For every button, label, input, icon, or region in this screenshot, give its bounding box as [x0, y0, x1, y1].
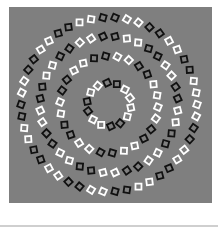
square-marker [84, 98, 91, 105]
square-marker [154, 52, 162, 60]
square-marker [64, 178, 72, 186]
square-marker [84, 107, 92, 115]
square-marker [37, 95, 44, 102]
square-marker [167, 71, 175, 79]
square-marker [21, 125, 27, 131]
square-marker [85, 145, 93, 153]
square-marker [54, 171, 62, 179]
square-marker [134, 18, 142, 26]
square-marker [187, 67, 193, 73]
square-marker [168, 130, 175, 137]
square-marker [87, 89, 94, 96]
square-marker [17, 101, 25, 109]
horizontal-divider [0, 225, 218, 227]
square-marker [144, 70, 152, 78]
ring-3 [56, 52, 162, 156]
square-marker [37, 156, 45, 164]
square-marker [116, 119, 124, 127]
square-marker [45, 164, 53, 172]
square-marker [76, 38, 84, 46]
square-marker [193, 89, 200, 96]
square-marker [75, 139, 83, 147]
square-marker [181, 56, 188, 63]
square-marker [124, 35, 131, 42]
square-marker [134, 162, 142, 170]
square-marker [56, 52, 64, 60]
square-marker [87, 186, 95, 194]
square-marker [56, 98, 64, 106]
square-marker [146, 178, 153, 185]
square-marker [99, 14, 106, 21]
square-marker [56, 149, 64, 157]
square-marker [24, 66, 32, 74]
square-marker [99, 187, 107, 195]
square-marker [173, 46, 181, 54]
square-marker [154, 149, 162, 157]
square-marker [30, 146, 37, 153]
square-marker [99, 169, 106, 176]
square-marker [123, 186, 130, 193]
square-marker [111, 14, 119, 22]
square-marker [152, 114, 160, 122]
square-marker [102, 52, 109, 59]
square-marker [96, 148, 104, 156]
square-marker [48, 140, 56, 148]
square-marker [89, 115, 97, 123]
square-marker [156, 29, 164, 37]
square-marker [113, 53, 121, 61]
ring-1 [17, 14, 201, 196]
square-marker [91, 55, 97, 61]
square-marker [65, 24, 72, 31]
square-marker [145, 45, 152, 52]
square-marker [65, 44, 73, 52]
square-marker [66, 157, 73, 164]
square-marker [38, 118, 46, 126]
square-marker [103, 79, 111, 87]
concentric-circles-illusion [0, 0, 218, 234]
square-marker [99, 32, 107, 40]
ring-4 [84, 79, 135, 130]
square-marker [154, 92, 161, 99]
square-marker [156, 172, 163, 179]
square-marker [135, 184, 141, 190]
square-marker [193, 101, 201, 109]
square-marker [98, 122, 104, 128]
square-marker [165, 37, 173, 45]
square-marker [18, 113, 25, 120]
square-marker [154, 103, 162, 111]
square-marker [55, 30, 62, 37]
square-marker [135, 62, 143, 70]
square-marker [61, 122, 67, 128]
square-marker [111, 33, 118, 40]
square-marker [180, 146, 188, 154]
square-marker [125, 56, 133, 64]
square-marker [140, 135, 148, 143]
square-marker [135, 39, 142, 46]
square-marker [43, 72, 50, 79]
square-marker [88, 16, 95, 23]
square-marker [174, 95, 182, 103]
square-marker [161, 61, 169, 69]
square-marker [57, 110, 64, 117]
square-marker [80, 60, 87, 67]
square-marker [25, 136, 31, 142]
square-marker [94, 82, 102, 90]
square-marker [58, 86, 66, 94]
square-marker [123, 166, 131, 174]
square-marker [18, 89, 26, 97]
square-marker [144, 156, 152, 164]
square-marker [70, 66, 78, 74]
square-marker [42, 129, 50, 137]
square-marker [123, 15, 131, 23]
square-marker [88, 167, 95, 174]
square-marker [192, 112, 200, 120]
square-marker [63, 76, 71, 84]
square-marker [111, 169, 119, 177]
square-marker [67, 131, 75, 139]
square-marker [39, 84, 46, 91]
square-marker [114, 81, 120, 87]
square-marker [171, 83, 179, 91]
square-marker [173, 155, 181, 163]
square-marker [87, 34, 95, 42]
square-marker [172, 119, 179, 126]
